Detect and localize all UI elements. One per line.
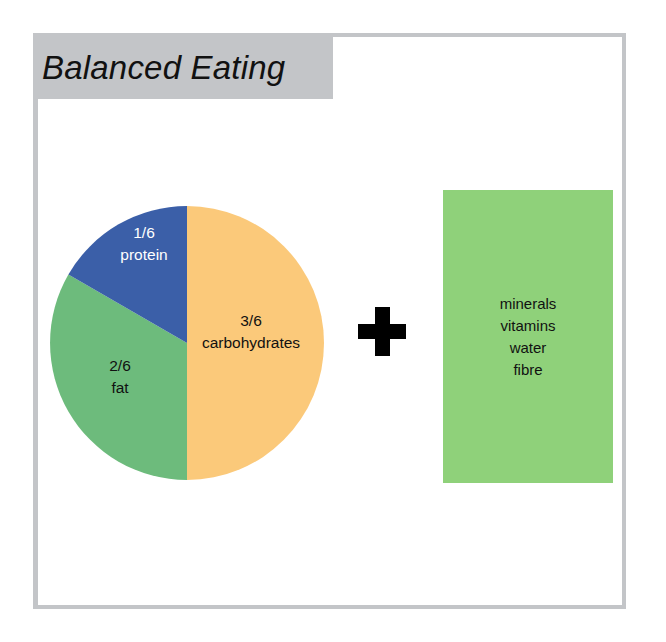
extras-item-vitamins: vitamins	[500, 315, 555, 337]
protein-name: protein	[120, 244, 167, 266]
fat-fraction: 2/6	[109, 355, 131, 377]
extras-item-water: water	[510, 337, 547, 359]
fat-label: 2/6 fat	[109, 355, 131, 399]
extras-box: minerals vitamins water fibre	[443, 190, 613, 483]
protein-label: 1/6 protein	[120, 222, 167, 266]
extras-item-minerals: minerals	[500, 293, 557, 315]
fat-name: fat	[109, 377, 131, 399]
plus-icon-vertical-bar	[375, 307, 390, 356]
carbohydrates-label: 3/6 carbohydrates	[202, 310, 300, 354]
carbohydrates-fraction: 3/6	[202, 310, 300, 332]
protein-fraction: 1/6	[120, 222, 167, 244]
extras-item-fibre: fibre	[513, 359, 542, 381]
carbohydrates-name: carbohydrates	[202, 332, 300, 354]
